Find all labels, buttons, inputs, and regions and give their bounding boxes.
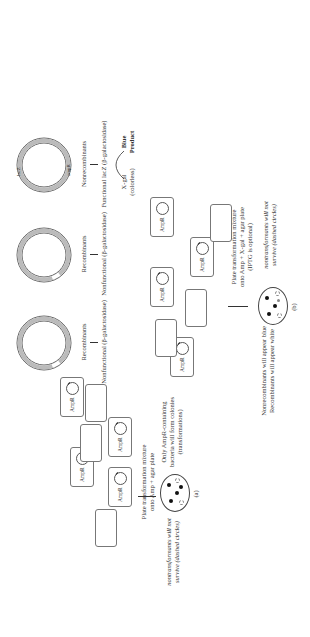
plasmid-icon	[156, 202, 169, 215]
bacterium-cell-empty	[95, 509, 117, 547]
bacterium-cell: AmpR	[190, 237, 214, 277]
result-note-b1: Nonrecombinants will appear blue	[260, 321, 268, 421]
bacterium-cell: AmpR	[60, 377, 84, 417]
bacterium-cell: AmpR	[150, 197, 174, 237]
plasmid-result: Nonfunctional (β-galactosidase)	[100, 211, 108, 297]
panel-b-caption: (b)	[290, 297, 298, 317]
bacterium-cell: AmpR	[108, 467, 132, 507]
step-b-line2: onto Amp + X-gal + agar plate	[238, 192, 246, 302]
plasmid-icon	[156, 272, 169, 285]
plasmid-icon	[196, 242, 209, 255]
blue-product-line2: Product	[128, 127, 136, 157]
plasmid-label: Recombinants	[80, 307, 88, 377]
arrow-down-icon	[90, 254, 98, 255]
bacterium-cell: AmpR	[108, 417, 132, 457]
plasmid-icon	[114, 422, 127, 435]
diagram-canvas: lacZ ampR Nonrecombinants Functional lac…	[0, 0, 310, 637]
plasmid-result: Nonfunctional (β-galactosidase)	[100, 299, 108, 385]
nontransformant-note-a2: survive (dashed circles)	[173, 507, 181, 597]
result-note-b2: Recombinants will appear white	[268, 321, 276, 421]
nontransformant-note-a1: nontransformants will not	[165, 507, 173, 597]
step-a-line2: onto Amp + agar plate	[148, 427, 156, 537]
plasmid-icon	[176, 342, 189, 355]
step-a-line1: Plate transformation mixture	[140, 427, 148, 537]
gene-ampr-label: ampR	[66, 164, 72, 176]
bacterium-cell: AmpR	[150, 267, 174, 307]
nontransformant-note-b1: nontransformants will not	[262, 185, 270, 285]
plasmid-recombinant	[12, 223, 76, 287]
gene-lacz-label: lacZ	[16, 167, 22, 176]
bacterium-cell-empty	[85, 384, 107, 422]
step-b-line1: Plate transformation mixture	[230, 192, 238, 302]
blue-product: Blue	[120, 127, 128, 157]
plasmid-result: Functional lacZ (β-galactosidase)	[100, 116, 108, 212]
result-note-a3: (transformations)	[176, 387, 184, 477]
arrow-down-icon	[90, 342, 98, 343]
result-note-a1: Only AmpR-containing	[160, 387, 168, 477]
arrow-down-icon	[228, 306, 248, 307]
agar-plate-b	[258, 287, 288, 325]
plasmid-recombinant	[12, 311, 76, 375]
plasmid-icon	[114, 472, 127, 485]
bacterium-cell-empty	[155, 319, 177, 357]
panel-a-caption: (a)	[192, 484, 200, 504]
arrow-down-icon	[90, 164, 98, 165]
nontransformant-note-b2: survive (dashed circles)	[270, 185, 278, 285]
result-note-a2: bacteria will form colonies	[168, 387, 176, 477]
plasmid-icon	[66, 382, 79, 395]
bacterium-cell-empty	[210, 204, 232, 242]
plasmid-label: Nonrecombinants	[80, 129, 88, 199]
bacterium-cell-empty	[80, 424, 102, 462]
plasmid-label: Recombinants	[80, 219, 88, 289]
bacterium-cell-empty	[185, 289, 207, 327]
arrow-down-icon	[138, 496, 156, 497]
step-b-line3: (IPTG is optional)	[246, 192, 254, 302]
